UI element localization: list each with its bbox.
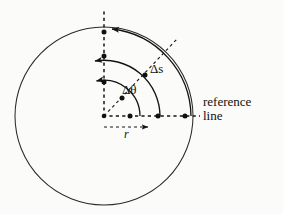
point-on-circle-right	[183, 114, 188, 119]
diagonal-ray-dashed	[104, 39, 177, 116]
reference-line-label-line2: line	[203, 109, 251, 123]
reference-line-label: reference line	[203, 95, 251, 123]
diag-point-on-arc	[143, 73, 148, 78]
point-upper-mid	[102, 54, 107, 59]
point-mid	[156, 114, 161, 119]
reference-line-label-line1: reference	[203, 94, 251, 109]
center-point	[102, 114, 107, 119]
point-top-of-circle	[102, 30, 107, 35]
radius-label: r	[124, 128, 129, 141]
figure-canvas: reference line Δs Δθ r	[0, 0, 283, 214]
point-near-center	[128, 114, 133, 119]
delta-s-label: Δs	[150, 62, 163, 76]
point-upper-near	[102, 80, 107, 85]
delta-theta-label: Δθ	[122, 83, 137, 97]
